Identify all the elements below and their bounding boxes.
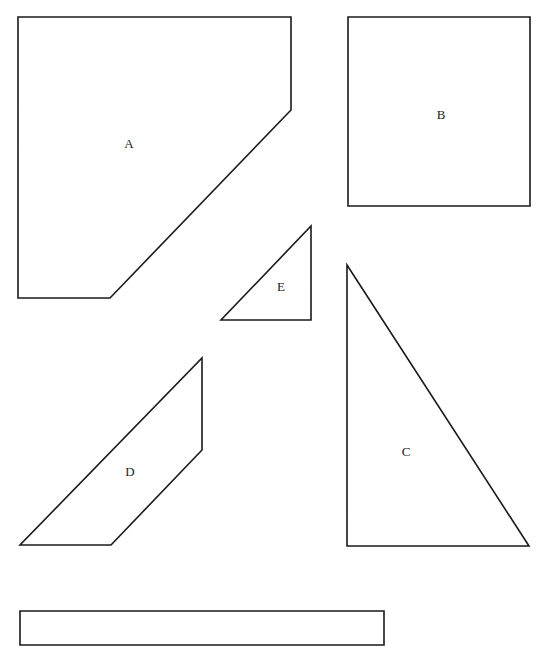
shape-d-outline	[20, 358, 202, 545]
shape-strip-outline	[20, 611, 384, 645]
shape-b-label: B	[437, 107, 446, 122]
shape-b: B	[348, 17, 530, 206]
shape-e-outline	[221, 226, 311, 320]
shape-strip	[20, 611, 384, 645]
shape-c-label: C	[402, 444, 411, 459]
shape-a: A	[18, 17, 291, 298]
shape-c-outline	[347, 265, 529, 546]
shape-e: E	[221, 226, 311, 320]
shape-a-outline	[18, 17, 291, 298]
shape-c: C	[347, 265, 529, 546]
shape-d: D	[20, 358, 202, 545]
shape-a-label: A	[124, 136, 134, 151]
puzzle-diagram: A B E D C	[0, 0, 542, 654]
shape-d-label: D	[125, 464, 134, 479]
shape-e-label: E	[277, 279, 285, 294]
